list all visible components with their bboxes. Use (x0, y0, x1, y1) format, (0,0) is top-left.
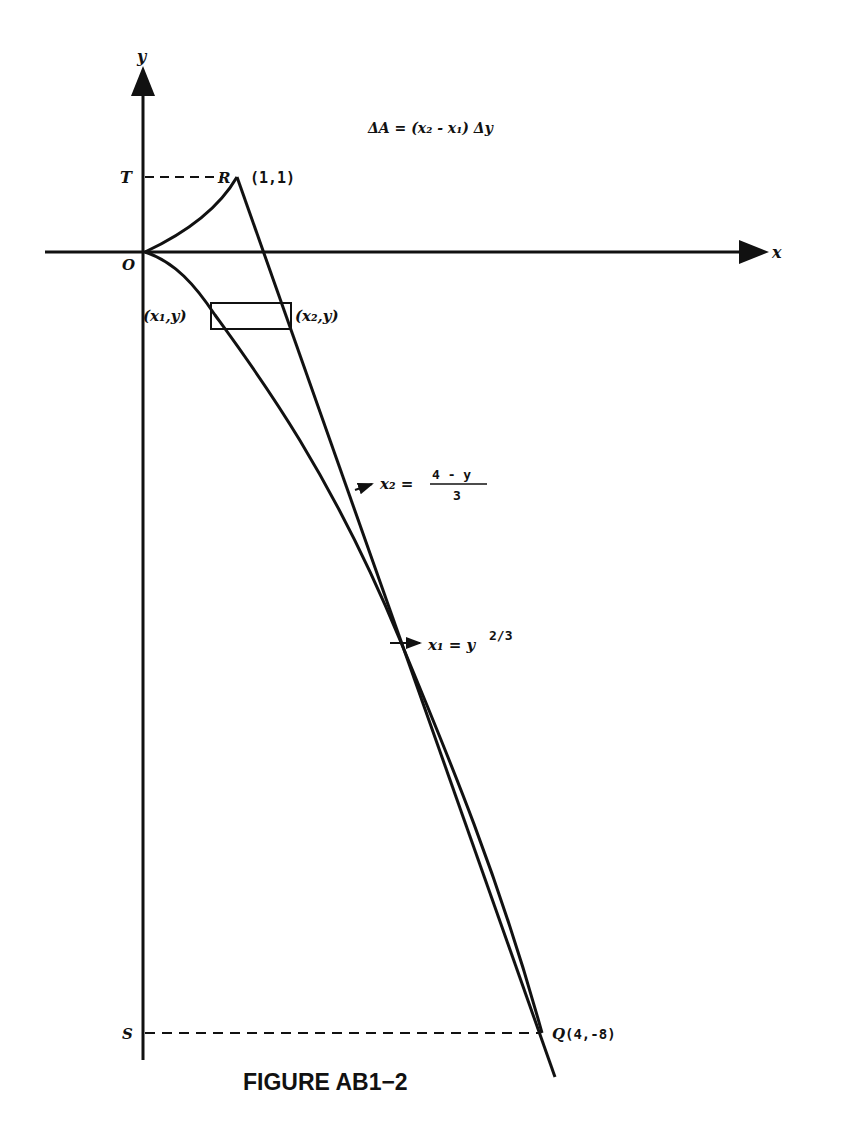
x1-formula-exponent: 2/3 (489, 628, 512, 643)
x-axis-label: x (771, 243, 782, 262)
origin-label: O (122, 256, 135, 274)
pointer-arrow-x2 (355, 484, 372, 490)
point-s-label: S (122, 1025, 133, 1043)
point-q-coords: (4,-8) (565, 1026, 616, 1042)
point-r-label: R (217, 169, 230, 187)
x2-formula-numerator: 4 - y (432, 467, 471, 482)
point-r-coords: (1,1) (250, 169, 295, 187)
area-formula: ΔA = (x₂ - x₁) Δy (367, 120, 494, 136)
figure-canvas: y x O T R (1,1) S Q (4,-8) (x₁,y) (x₂,y)… (0, 0, 850, 1139)
curve-x1 (145, 252, 542, 1033)
strip-right-label: (x₂,y) (295, 307, 339, 325)
x2-formula-denominator: 3 (453, 488, 461, 503)
y-axis-label: y (136, 47, 148, 66)
x2-formula-lhs: x₂ = (379, 475, 413, 493)
figure-caption: FIGURE AB1−2 (243, 1069, 408, 1095)
line-x2 (237, 177, 555, 1077)
strip-left-label: (x₁,y) (143, 307, 187, 325)
point-q-label: Q (552, 1025, 565, 1043)
x1-formula-lhs: x₁ = y (427, 636, 477, 654)
curve-upper-branch (145, 177, 237, 252)
point-t-label: T (120, 168, 133, 187)
